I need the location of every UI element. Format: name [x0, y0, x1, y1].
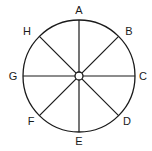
label-g: G: [9, 70, 18, 82]
compass-diagram: A B C D E F G H: [0, 0, 152, 151]
label-f: F: [28, 115, 35, 127]
label-e: E: [75, 135, 82, 147]
hub: [75, 72, 83, 80]
label-a: A: [75, 4, 83, 16]
label-h: H: [23, 25, 31, 37]
label-b: B: [125, 25, 132, 37]
label-d: D: [123, 115, 131, 127]
label-c: C: [139, 70, 147, 82]
